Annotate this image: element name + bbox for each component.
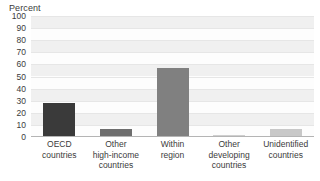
x-axis-baseline: [31, 136, 314, 137]
grid-line: [31, 64, 314, 65]
grid-band: [31, 40, 314, 52]
y-tick-label: 60: [17, 60, 26, 69]
grid-line: [31, 28, 314, 29]
x-tick-label: Unidentified countries: [257, 139, 314, 160]
grid-line: [31, 40, 314, 41]
y-tick-label: 80: [17, 36, 26, 45]
grid-line: [31, 16, 314, 17]
bar: [43, 103, 75, 137]
y-tick-label: 100: [12, 12, 26, 21]
y-tick-label: 90: [17, 24, 26, 33]
x-axis-tick-labels: OECD countriesOther high-income countrie…: [31, 139, 314, 181]
grid-line: [31, 52, 314, 53]
y-tick-label: 0: [21, 133, 26, 142]
bar: [157, 68, 189, 137]
y-tick-label: 20: [17, 108, 26, 117]
y-tick-label: 30: [17, 96, 26, 105]
y-tick-label: 40: [17, 84, 26, 93]
x-tick-label: OECD countries: [31, 139, 88, 160]
y-tick-label: 50: [17, 72, 26, 81]
x-tick-label: Within region: [144, 139, 201, 160]
y-axis-tick-labels: 1009080706050403020100: [0, 16, 28, 137]
grid-band: [31, 16, 314, 28]
bar-chart: Percent 1009080706050403020100 OECD coun…: [0, 0, 320, 181]
y-tick-label: 10: [17, 120, 26, 129]
plot-area: [31, 16, 314, 137]
x-tick-label: Other developing countries: [201, 139, 258, 171]
x-tick-label: Other high-income countries: [88, 139, 145, 171]
y-tick-label: 70: [17, 48, 26, 57]
